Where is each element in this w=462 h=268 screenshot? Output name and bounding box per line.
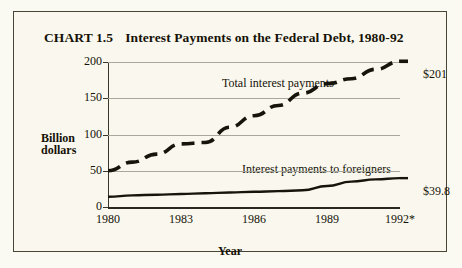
series-line-total-interest-payments bbox=[108, 61, 400, 171]
series-line-interest-payments-to-foreigners bbox=[108, 178, 400, 197]
chart-plot-area bbox=[0, 0, 462, 268]
